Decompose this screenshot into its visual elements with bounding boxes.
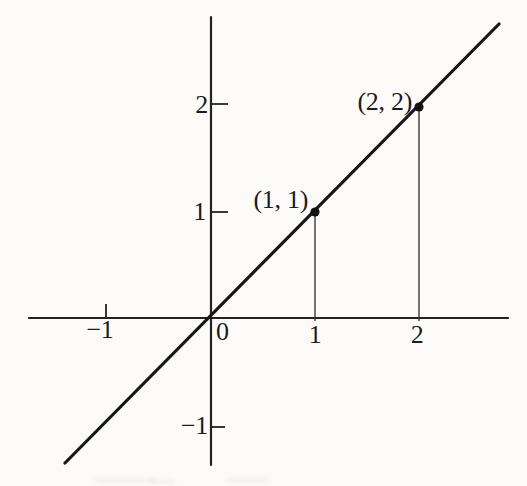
- origin-label: 0: [216, 317, 229, 346]
- x-tick-label-neg1: −1: [86, 315, 113, 344]
- graph-svg: (1, 1) (2, 2) 0 −1 1 2 1 2 −1: [0, 0, 527, 486]
- scan-artifact: [95, 478, 155, 483]
- x-tick-label-2: 2: [411, 320, 424, 349]
- coordinate-plane-figure: (1, 1) (2, 2) 0 −1 1 2 1 2 −1: [0, 0, 527, 486]
- point-2-2-label: (2, 2): [357, 87, 412, 116]
- point-1-1-label: (1, 1): [253, 185, 308, 214]
- point-1-1-dot: [310, 207, 319, 216]
- scan-artifact: [150, 479, 175, 484]
- x-tick-label-1: 1: [309, 320, 322, 349]
- y-tick-label-2: 2: [195, 90, 208, 119]
- y-tick-label-neg1: −1: [181, 411, 208, 440]
- scan-artifact: [225, 478, 270, 483]
- point-2-2-dot: [414, 102, 423, 111]
- paper-background: [0, 0, 527, 486]
- y-tick-label-1: 1: [193, 197, 206, 226]
